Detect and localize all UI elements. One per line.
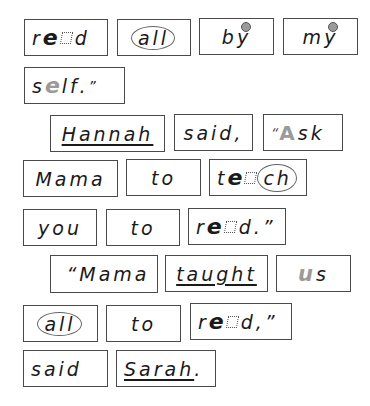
word-said: said xyxy=(31,358,82,380)
letter-r: r xyxy=(32,27,43,49)
letter-e-bold: e xyxy=(43,25,60,50)
letter-y-marked: y xyxy=(324,26,338,48)
circled-word-all: all xyxy=(131,26,175,50)
letter-a-grey: A xyxy=(279,121,297,145)
word-box-read: red xyxy=(24,19,108,56)
word-box-taught: taught xyxy=(165,255,268,292)
period: . xyxy=(194,358,203,380)
word-mama: Mama xyxy=(35,168,105,190)
close-quote: ” xyxy=(89,78,97,94)
word-box-said: said xyxy=(23,350,108,387)
word-box-you: you xyxy=(23,209,97,246)
silent-letter-a-box-icon xyxy=(224,221,237,233)
word-box-sarah: Sarah. xyxy=(116,350,216,387)
grey-dot-icon xyxy=(328,22,338,32)
letter-e-bold: e xyxy=(227,165,244,190)
letter-b: b xyxy=(222,26,237,48)
open-quote: “ xyxy=(271,125,279,141)
word-to: to xyxy=(130,217,155,239)
letter-y-marked: y xyxy=(237,26,251,48)
word-box-all: all xyxy=(117,19,191,56)
silent-letter-a-box-icon xyxy=(226,316,239,328)
letters-d-period-quote: d.” xyxy=(239,216,276,238)
letters-lf: lf. xyxy=(62,75,89,97)
word-quoted-mama: “Mama xyxy=(58,263,149,285)
word-box-self: self.” xyxy=(24,67,125,104)
letter-r: r xyxy=(196,216,207,238)
word-box-to: to xyxy=(106,305,181,342)
word-box-read: red,” xyxy=(190,303,292,340)
word-box-teach: tech xyxy=(209,159,307,196)
word-box-hannah: Hannah xyxy=(50,115,165,152)
word-box-ask: “Ask xyxy=(263,114,343,151)
underlined-name-sarah: Sarah xyxy=(124,358,194,380)
word-box-all: all xyxy=(23,305,98,342)
letter-t: t xyxy=(217,167,227,189)
silent-letter-a-box-icon xyxy=(60,32,73,44)
word-to: to xyxy=(131,313,156,335)
word-box-us: us xyxy=(276,255,351,292)
word-to: to xyxy=(151,167,176,189)
letter-e-grey: e xyxy=(45,73,62,98)
word-said: said, xyxy=(184,122,244,144)
letter-e-bold: e xyxy=(207,214,224,239)
word-box-to: to xyxy=(126,159,201,196)
silent-letter-a-box-icon xyxy=(244,172,257,184)
grey-dot-icon xyxy=(241,22,251,32)
word-box-mama-quoted: “Mama xyxy=(50,255,158,293)
letter-m: m xyxy=(303,26,325,48)
letter-e-bold: e xyxy=(209,309,226,334)
letter-u-grey: u xyxy=(298,262,316,286)
underlined-word-taught: taught xyxy=(176,263,257,285)
word-box-my: my xyxy=(283,18,358,55)
letter-r: r xyxy=(198,311,209,333)
letter-s: s xyxy=(316,263,329,285)
letters-sk: sk xyxy=(298,122,325,144)
circled-digraph-ch: ch xyxy=(257,164,297,192)
word-box-mama: Mama xyxy=(23,160,118,197)
letter-d: d xyxy=(75,27,90,49)
word-box-said: said, xyxy=(174,114,253,151)
word-box-to: to xyxy=(106,209,180,246)
word-box-by: by xyxy=(199,18,274,55)
letter-s: s xyxy=(32,75,45,97)
circled-word-all: all xyxy=(37,312,81,336)
underlined-name-hannah: Hannah xyxy=(62,123,154,145)
word-you: you xyxy=(38,217,82,239)
letters-d-comma-quote: d,” xyxy=(241,311,278,333)
word-box-read: red.” xyxy=(188,208,286,245)
